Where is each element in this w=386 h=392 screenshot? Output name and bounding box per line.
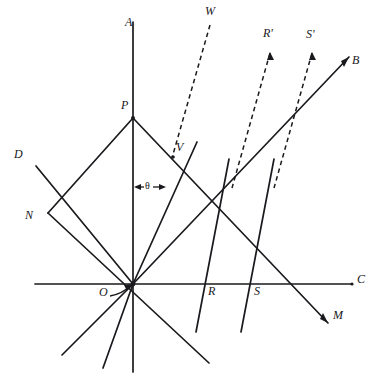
label-B: B bbox=[352, 54, 359, 66]
arrow-B-icon bbox=[341, 57, 349, 67]
theta-arrow-left-icon bbox=[134, 184, 141, 190]
vertex-dot-P bbox=[131, 116, 135, 120]
arrow-M-icon bbox=[320, 313, 328, 323]
wavefront-W-dashed bbox=[172, 25, 210, 158]
ray-OB bbox=[133, 57, 349, 284]
label-D: D bbox=[14, 148, 23, 160]
label-N: N bbox=[25, 209, 33, 221]
vertex-dot-C bbox=[350, 282, 353, 285]
label-P: P bbox=[121, 99, 128, 111]
geometry-canvas bbox=[0, 0, 386, 392]
label-S: S bbox=[254, 285, 260, 297]
label-V: V bbox=[176, 141, 183, 153]
label-O: O bbox=[99, 286, 108, 298]
label-R: R bbox=[208, 285, 215, 297]
arrow-Sprime-icon bbox=[309, 52, 316, 60]
vertex-dot-origin bbox=[131, 282, 136, 287]
label-M: M bbox=[333, 309, 343, 321]
ray-O-lower-left-shallow bbox=[62, 284, 133, 355]
arrow-Rprime-icon bbox=[267, 52, 274, 60]
wavefront-R-solid bbox=[196, 159, 229, 332]
label-S-prime: S' bbox=[306, 28, 315, 40]
label-W: W bbox=[205, 5, 215, 17]
geometry-figure: A W R' S' B P V D N θ O R S C M bbox=[0, 0, 386, 392]
label-C: C bbox=[357, 273, 365, 285]
ray-O-through-V bbox=[133, 142, 197, 284]
theta-arrow-right-icon bbox=[159, 184, 166, 190]
wavefront-Rprime-dashed bbox=[232, 53, 270, 188]
vertex-dot-V bbox=[171, 155, 175, 159]
wavefront-S-solid bbox=[241, 159, 274, 332]
label-theta: θ bbox=[145, 181, 150, 191]
line-P-to-N bbox=[48, 118, 133, 213]
label-R-prime: R' bbox=[263, 27, 273, 39]
line-D-to-origin bbox=[36, 166, 133, 284]
wavefront-Sprime-dashed bbox=[274, 53, 312, 188]
label-A: A bbox=[125, 16, 132, 28]
